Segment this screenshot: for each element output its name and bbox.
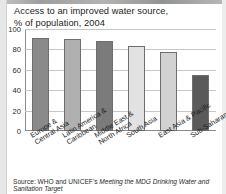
plot-area: 020406080100 Europe &Central AsiaLatin A… (25, 29, 216, 131)
source-lead: Source: WHO and UNICEF's (13, 178, 99, 185)
y-axis-tick-label: 60 (13, 65, 21, 74)
chart-title-line-2: % of population, 2004 (14, 18, 214, 30)
y-axis-tick-label: 40 (13, 86, 21, 95)
source-note: Source: WHO and UNICEF's Meeting the MDG… (13, 178, 219, 193)
scan-artifact-left (0, 0, 7, 194)
chart-title-line-1: Access to an improved water source, (14, 6, 214, 18)
y-axis-tick-label: 20 (13, 106, 21, 115)
bar (160, 52, 177, 131)
chart-title: Access to an improved water source, % of… (14, 6, 214, 29)
y-axis-tick-label: 80 (13, 45, 21, 54)
bar (32, 38, 49, 131)
scan-artifact-top (0, 0, 226, 4)
y-axis-tick-label: 100 (8, 25, 21, 34)
y-axis-tick-label: 0 (17, 127, 21, 136)
bar (64, 39, 81, 131)
chart-figure: Access to an improved water source, % of… (0, 0, 226, 194)
scan-artifact-right (222, 0, 226, 194)
